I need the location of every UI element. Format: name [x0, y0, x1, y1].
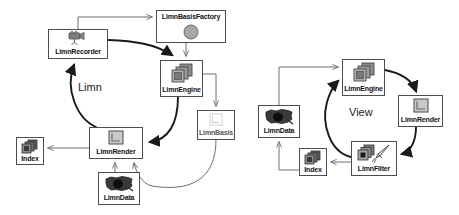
node-index-left[interactable]: Index — [16, 137, 44, 165]
gray-circle-icon — [157, 21, 225, 42]
group-label-limn: Limn — [78, 81, 102, 93]
node-limnbasis[interactable]: LimnBasis — [197, 110, 235, 140]
node-label: LimnData — [104, 194, 135, 204]
node-label: LimnBasisFactory — [162, 11, 220, 21]
edge-engine-to-render — [150, 97, 178, 142]
node-limnrender[interactable]: LimnRender — [89, 127, 143, 159]
node-label: LimnEngine — [162, 86, 201, 96]
us-map-icon — [99, 173, 139, 194]
node-label: LimnRender — [401, 116, 440, 126]
node-label: LimnFilter — [358, 165, 390, 175]
diagram-canvas: Limn View LimnBasisFactory LimnRecorder — [0, 0, 459, 215]
group-label-view: View — [349, 106, 373, 118]
edge-engine-to-basis — [203, 74, 216, 106]
node-limnrecorder[interactable]: LimnRecorder — [48, 29, 108, 59]
filter-brush-icon — [352, 142, 396, 165]
edge-viewindex-to-viewdata — [279, 142, 299, 170]
node-label: LimnBasis — [199, 129, 233, 139]
node-view-limnengine[interactable]: LimnEngine — [342, 59, 385, 96]
node-label: LimnEngine — [344, 85, 383, 95]
light-frame-icon — [198, 111, 234, 129]
stacked-squares-icon — [161, 61, 202, 86]
node-label: LimnRecorder — [55, 48, 101, 58]
edge-basis-to-render — [134, 140, 216, 187]
video-camera-icon — [49, 30, 107, 48]
edge-viewrender-to-viewfilter — [402, 127, 416, 154]
stacked-squares-icon — [343, 60, 384, 85]
frame-square-icon — [399, 96, 442, 116]
node-view-limndata[interactable]: LimnData — [258, 105, 300, 138]
node-view-limnrender[interactable]: LimnRender — [398, 95, 443, 127]
stacked-dark-icon — [17, 138, 43, 155]
node-view-index[interactable]: Index — [299, 148, 327, 176]
node-label: LimnRender — [96, 148, 135, 158]
node-limndata[interactable]: LimnData — [98, 172, 140, 205]
stacked-dark-icon — [300, 149, 326, 166]
node-label: LimnData — [264, 127, 295, 137]
node-limnbasisfactory[interactable]: LimnBasisFactory — [156, 10, 226, 43]
edge-viewdata-to-viewengine — [279, 67, 338, 105]
edge-recorder-to-basisfactory — [78, 17, 152, 29]
node-label: Index — [21, 155, 39, 164]
node-label: Index — [304, 166, 322, 175]
frame-square-icon — [90, 128, 142, 148]
node-view-limnfilter[interactable]: LimnFilter — [351, 141, 397, 176]
edge-viewengine-to-viewrender — [385, 70, 416, 91]
edge-render-to-recorder — [71, 65, 96, 127]
node-limnengine[interactable]: LimnEngine — [160, 60, 203, 97]
us-map-icon — [259, 106, 299, 127]
